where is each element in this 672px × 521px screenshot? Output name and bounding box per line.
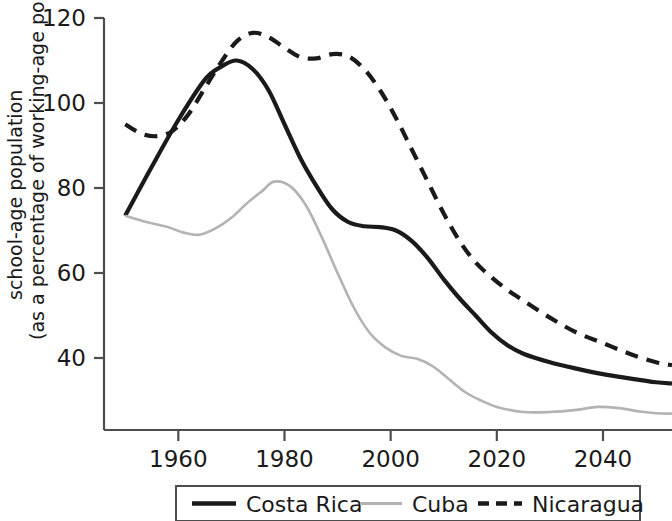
y-tick-label: 100: [42, 90, 86, 116]
y-tick-label: 40: [57, 345, 86, 371]
legend-label-cuba[interactable]: Cuba: [412, 492, 469, 517]
chart-figure: school-age population (as a percentage o…: [0, 0, 672, 521]
x-tick-label: 1960: [149, 446, 208, 472]
series-line-costa-rica: [125, 60, 672, 383]
y-tick-label: 120: [42, 5, 86, 31]
series-line-nicaragua: [125, 33, 672, 365]
legend-label-nicaragua[interactable]: Nicaragua: [532, 492, 644, 517]
y-axis-title-line1: school-age population: [4, 90, 26, 300]
y-axis-title-line2: (as a percentage of working-age populati…: [26, 0, 48, 340]
y-tick-label: 60: [57, 260, 86, 286]
series-line-cuba: [125, 181, 672, 413]
legend-label-costa-rica[interactable]: Costa Rica: [246, 492, 362, 517]
y-tick-label: 80: [57, 175, 86, 201]
line-chart: school-age population (as a percentage o…: [0, 0, 672, 521]
series-layer: [125, 33, 672, 414]
tick-label-layer: 40608010012019601980200020202040: [42, 5, 632, 472]
y-axis-title: school-age population (as a percentage o…: [4, 0, 48, 340]
x-tick-label: 2000: [361, 446, 420, 472]
legend-box[interactable]: Costa RicaCubaNicaragua: [176, 486, 644, 521]
x-tick-label: 1980: [255, 446, 314, 472]
x-tick-label: 2040: [574, 446, 633, 472]
x-tick-label: 2020: [468, 446, 527, 472]
